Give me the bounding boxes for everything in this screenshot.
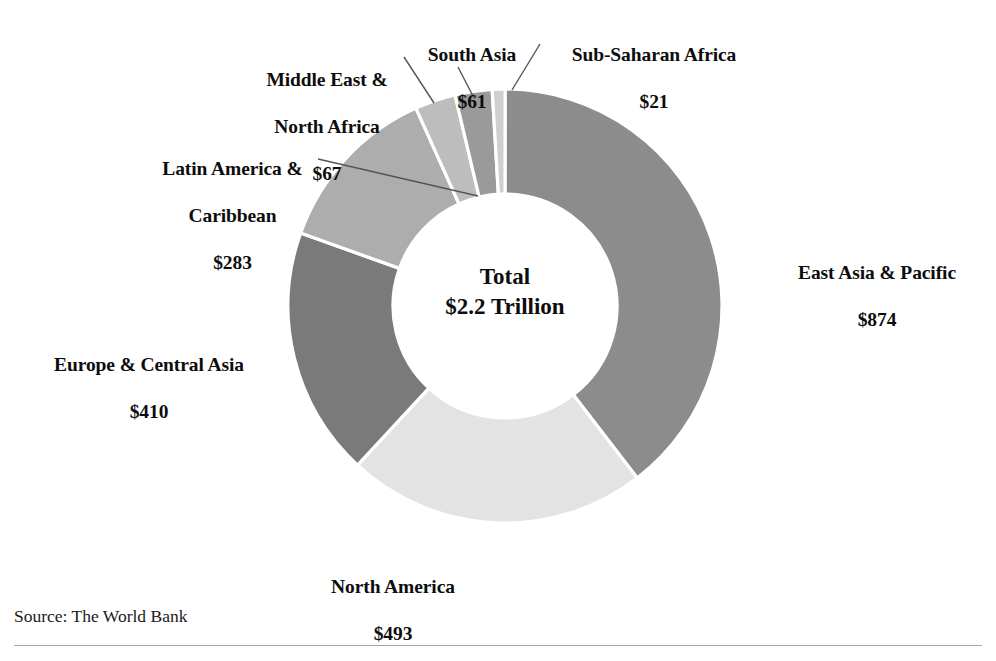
callout-label-middle-east-north-africa-line2: North Africa (252, 115, 402, 138)
callout-label-south-asia: South Asia (412, 43, 532, 66)
donut-chart-figure: East Asia & Pacific $874North America $4… (0, 0, 996, 661)
source-note: Source: The World Bank (14, 606, 187, 627)
center-total-value: $2.2 Trillion (395, 292, 615, 322)
callout-label-north-america: North America (278, 575, 508, 598)
callout-south-asia: South Asia $61 (412, 20, 532, 137)
callout-label-east-asia-pacific: East Asia & Pacific (772, 261, 982, 284)
callout-value-europe-central-asia: $410 (18, 400, 280, 423)
callout-value-latin-america-caribbean: $283 (130, 251, 335, 274)
callout-value-north-america: $493 (278, 622, 508, 645)
callout-label-sub-saharan-africa: Sub-Saharan Africa (540, 43, 768, 66)
center-total-caption: Total (395, 262, 615, 292)
callout-middle-east-north-africa: Middle East & North Africa $67 (252, 45, 402, 209)
callout-sub-saharan-africa: Sub-Saharan Africa $21 (540, 20, 768, 137)
donut-center-total: Total $2.2 Trillion (395, 262, 615, 322)
callout-value-middle-east-north-africa: $67 (252, 162, 402, 185)
callout-value-sub-saharan-africa: $21 (540, 90, 768, 113)
callout-label-middle-east-north-africa-line1: Middle East & (252, 68, 402, 91)
callout-label-europe-central-asia: Europe & Central Asia (18, 353, 280, 376)
callout-value-east-asia-pacific: $874 (772, 308, 982, 331)
bottom-divider (14, 645, 982, 646)
callout-value-south-asia: $61 (412, 90, 532, 113)
callout-east-asia-pacific: East Asia & Pacific $874 (772, 238, 982, 355)
callout-europe-central-asia: Europe & Central Asia $410 (18, 330, 280, 447)
